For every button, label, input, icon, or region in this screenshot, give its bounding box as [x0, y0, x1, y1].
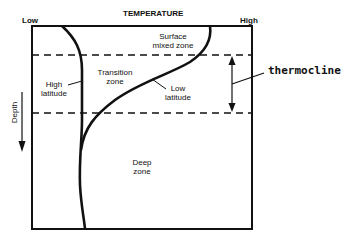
high-latitude-label: High latitude	[36, 80, 72, 98]
high-latitude-line-2: latitude	[36, 89, 72, 98]
thermocline-leader-line	[232, 73, 264, 84]
transition-zone-line-2: zone	[92, 77, 138, 86]
thermocline-arrow-up-icon	[229, 56, 236, 65]
surface-zone-line-2: mixed zone	[143, 41, 203, 50]
transition-zone-line-1: Transition	[92, 68, 138, 77]
high-latitude-curve	[62, 26, 85, 229]
surface-mixed-zone-label: Surface mixed zone	[143, 32, 203, 50]
temperature-high-label: High	[240, 16, 258, 25]
depth-axis-label: Depth	[10, 99, 19, 127]
low-latitude-label: Low latitude	[160, 84, 196, 102]
thermocline-label: thermocline	[268, 66, 341, 75]
transition-zone-label: Transition zone	[92, 68, 138, 86]
diagram-frame	[32, 26, 252, 229]
deep-zone-line-2: zone	[127, 167, 157, 176]
depth-arrow-head-icon	[19, 141, 26, 152]
surface-zone-line-1: Surface	[143, 32, 203, 41]
temperature-low-label: Low	[22, 16, 38, 25]
thermocline-arrow-down-icon	[229, 103, 236, 112]
high-latitude-line-1: High	[36, 80, 72, 89]
temperature-axis-title: TEMPERATURE	[123, 9, 183, 18]
low-latitude-line-2: latitude	[160, 93, 196, 102]
deep-zone-label: Deep zone	[127, 158, 157, 176]
low-latitude-line-1: Low	[160, 84, 196, 93]
deep-zone-line-1: Deep	[127, 158, 157, 167]
